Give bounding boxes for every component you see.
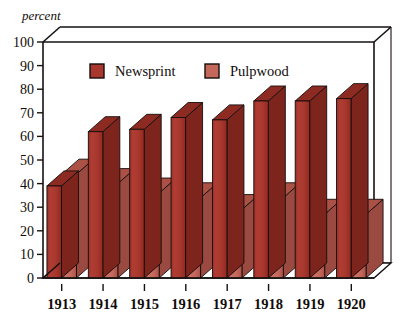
- y-tick-label: 70: [20, 106, 34, 121]
- y-tick-label: 20: [20, 224, 34, 239]
- legend-item-newsprint: Newsprint: [90, 63, 175, 79]
- x-tick-label: 1913: [47, 296, 76, 312]
- y-tick-label: 100: [13, 35, 34, 50]
- chart-legend: NewsprintPulpwood: [90, 63, 290, 79]
- bar-front-face: [171, 118, 186, 278]
- bar-1920-newsprint: [337, 84, 369, 278]
- bar-1913-newsprint: [47, 171, 79, 278]
- y-tick-label: 40: [20, 177, 34, 192]
- y-tick-label: 0: [27, 271, 34, 286]
- y-axis-ticks: 0102030405060708090100: [13, 35, 43, 286]
- bar-1918-newsprint: [254, 86, 286, 278]
- y-tick-label: 30: [20, 200, 34, 215]
- y-axis-title: percent: [21, 8, 61, 23]
- x-tick-label: 1916: [171, 296, 200, 312]
- x-tick-label: 1918: [254, 296, 283, 312]
- bar-1917-newsprint: [212, 105, 244, 278]
- bar-front-face: [337, 99, 352, 278]
- bar-front-face: [254, 101, 269, 278]
- bar-1916-newsprint: [171, 103, 203, 278]
- bar-side-face: [61, 171, 78, 278]
- bar-front-face: [130, 129, 145, 278]
- y-tick-label: 60: [20, 129, 34, 144]
- chart-canvas: 0102030405060708090100percent19131914191…: [0, 0, 411, 330]
- x-tick-label: 1914: [89, 296, 118, 312]
- x-tick-label: 1915: [130, 296, 159, 312]
- legend-swatch: [205, 64, 219, 78]
- bar-side-face: [268, 86, 285, 278]
- legend-swatch: [90, 64, 104, 78]
- bar-front-face: [88, 132, 103, 278]
- legend-item-pulpwood: Pulpwood: [205, 63, 290, 79]
- bar-side-face: [227, 105, 244, 278]
- bar-side-face: [351, 84, 368, 278]
- y-tick-label: 90: [20, 59, 34, 74]
- bars-group: [47, 84, 383, 291]
- top-right-depth-edge: [374, 27, 391, 42]
- bar-side-face: [310, 86, 327, 278]
- bar-1914-newsprint: [88, 117, 120, 278]
- y-tick-label: 80: [20, 82, 34, 97]
- bar-side-face: [144, 114, 161, 278]
- legend-label: Newsprint: [115, 63, 175, 79]
- bar-1919-newsprint: [295, 86, 327, 278]
- x-axis-labels: 19131914191519161917191819191920: [47, 296, 366, 312]
- bar-front-face: [295, 101, 310, 278]
- bar-front-face: [212, 120, 227, 278]
- bar-side-face: [186, 103, 203, 278]
- bar-chart: 0102030405060708090100percent19131914191…: [0, 0, 411, 330]
- x-tick-label: 1920: [337, 296, 366, 312]
- legend-label: Pulpwood: [230, 63, 290, 79]
- x-tick-label: 1917: [213, 296, 242, 312]
- plot-area: 0102030405060708090100percent19131914191…: [13, 8, 391, 312]
- x-tick-label: 1919: [295, 296, 324, 312]
- y-tick-label: 10: [20, 247, 34, 262]
- y-tick-label: 50: [20, 153, 34, 168]
- top-left-depth-edge: [43, 27, 60, 42]
- bar-side-face: [103, 117, 120, 278]
- bar-1915-newsprint: [130, 114, 162, 278]
